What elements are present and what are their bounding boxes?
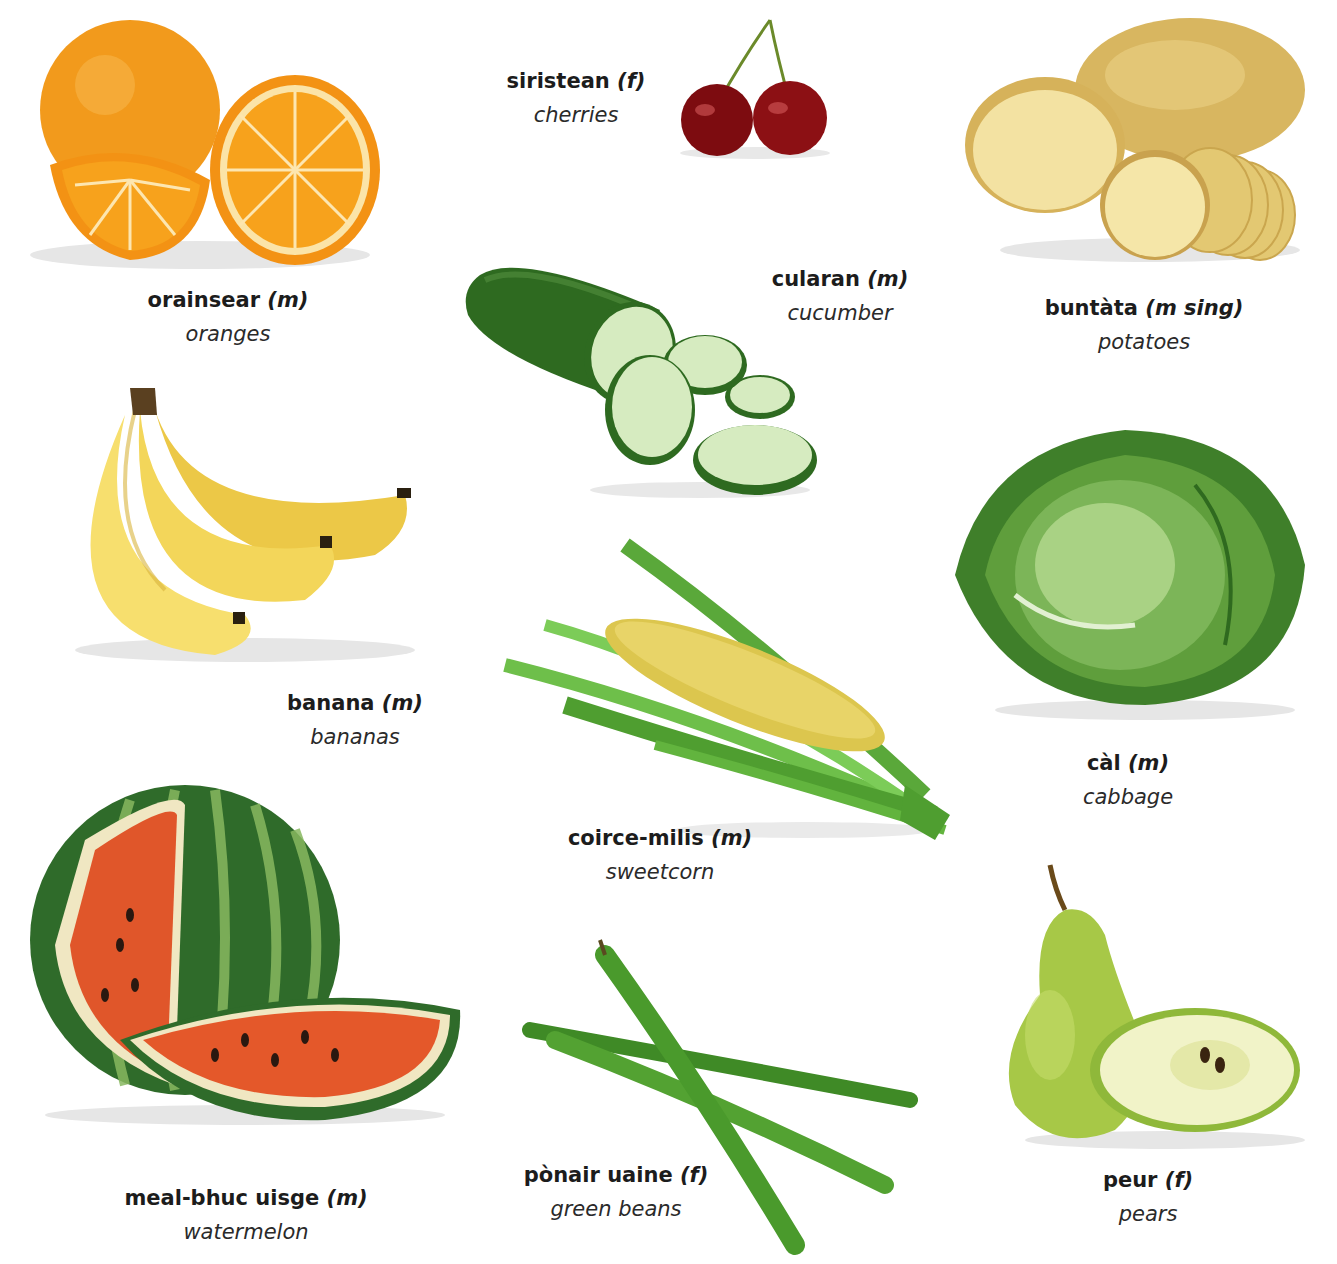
gaelic-word: meal-bhuc uisge [124, 1186, 319, 1210]
cherries-image [670, 15, 850, 160]
label-bananas: banana (m) bananas [287, 686, 423, 754]
bananas-image [45, 380, 425, 680]
gaelic-word: siristean [507, 69, 610, 93]
gender-tag: (m) [711, 826, 752, 850]
label-green-beans: pònair uaine (f) green beans [524, 1158, 709, 1226]
gaelic-word: banana [287, 691, 374, 715]
english-word: potatoes [1045, 325, 1244, 359]
gender-tag: (f) [680, 1163, 708, 1187]
english-word: cherries [507, 98, 646, 132]
label-watermelon: meal-bhuc uisge (m) watermelon [124, 1181, 367, 1249]
label-potatoes: buntàta (m sing) potatoes [1045, 291, 1244, 359]
potatoes-image [960, 15, 1310, 265]
label-cabbage: càl (m) cabbage [1083, 746, 1173, 814]
gaelic-word: càl [1087, 751, 1121, 775]
gaelic-word: orainsear [148, 288, 260, 312]
english-word: bananas [287, 720, 423, 754]
english-word: cabbage [1083, 780, 1173, 814]
label-oranges: orainsear (m) oranges [148, 283, 309, 351]
oranges-image [10, 15, 380, 275]
english-word: cucumber [772, 296, 909, 330]
label-cherries: siristean (f) cherries [507, 64, 646, 132]
label-cucumber: cularan (m) cucumber [772, 262, 909, 330]
english-word: oranges [148, 317, 309, 351]
gender-tag: (m sing) [1145, 296, 1243, 320]
label-pears: peur (f) pears [1103, 1163, 1193, 1231]
gaelic-word: peur [1103, 1168, 1158, 1192]
sweetcorn-image [505, 545, 955, 845]
gender-tag: (f) [617, 69, 645, 93]
english-word: watermelon [124, 1215, 367, 1249]
english-word: green beans [524, 1192, 709, 1226]
gender-tag: (m) [327, 1186, 368, 1210]
gender-tag: (m) [1128, 751, 1169, 775]
english-word: pears [1103, 1197, 1193, 1231]
gender-tag: (f) [1165, 1168, 1193, 1192]
english-word: sweetcorn [568, 855, 752, 889]
watermelon-image [25, 785, 465, 1130]
gaelic-word: coirce-milis [568, 826, 704, 850]
gender-tag: (m) [382, 691, 423, 715]
gender-tag: (m) [867, 267, 908, 291]
gaelic-word: buntàta [1045, 296, 1138, 320]
gaelic-word: cularan [772, 267, 860, 291]
label-sweetcorn: coirce-milis (m) sweetcorn [568, 821, 752, 889]
cabbage-image [945, 425, 1315, 725]
gaelic-word: pònair uaine [524, 1163, 673, 1187]
gender-tag: (m) [267, 288, 308, 312]
pears-image [995, 865, 1315, 1155]
